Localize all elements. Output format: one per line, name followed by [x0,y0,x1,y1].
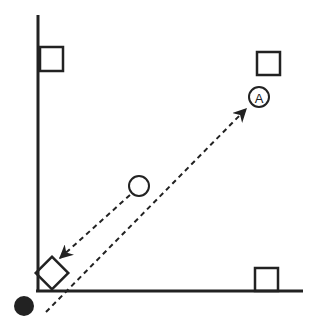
diagram-canvas: A [0,0,319,336]
filled-dot [14,296,34,316]
dashed-arrow-2 [46,109,246,312]
circle-label: A [255,91,264,106]
square-top-left [40,47,63,71]
square-bottom-right [255,268,278,291]
dashed-arrow-1 [60,195,130,258]
labeled-circle-a: A [249,87,269,107]
diagram-svg: A [0,0,319,336]
rotated-square [36,257,69,290]
square-top-right [257,52,280,75]
open-circle [129,176,149,196]
